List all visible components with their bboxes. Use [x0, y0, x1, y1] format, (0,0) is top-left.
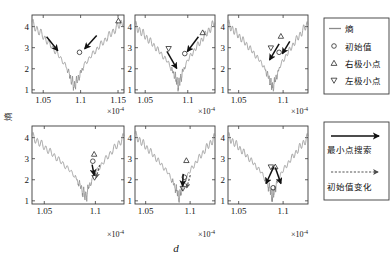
- y-axis-label: 熵: [3, 112, 13, 121]
- panel-6: 1.051.11234×10-4: [221, 126, 309, 239]
- x-tick-label: 1.05: [35, 95, 51, 105]
- y-tick-label: 3: [221, 43, 226, 53]
- entropy-search-figure: 熵 d 1.051.11.151234×10-41.051.11234×10-4…: [0, 0, 392, 258]
- x-tick-label: 1.05: [137, 95, 153, 105]
- panel-group: 1.051.11.151234×10-41.051.11234×10-41.05…: [25, 15, 309, 239]
- x-exponent-label: ×10-4: [291, 229, 308, 239]
- x-tick-label: 1.1: [184, 206, 195, 216]
- legend-arrows: 最小点搜索 初始值变化: [324, 122, 389, 200]
- y-tick-label: 2: [128, 64, 133, 74]
- y-tick-label: 3: [25, 43, 30, 53]
- x-axis-label: d: [173, 242, 179, 254]
- svg-text:d: d: [173, 242, 179, 254]
- y-tick-label: 2: [25, 64, 30, 74]
- y-tick-label: 1: [25, 85, 30, 95]
- y-tick-label: 4: [25, 133, 30, 143]
- x-exponent-label: ×10-4: [107, 106, 124, 116]
- circle-marker-icon: [91, 159, 96, 164]
- x-tick-label: 1.05: [36, 206, 52, 216]
- panel-1: 1.051.11.151234×10-4: [25, 15, 127, 116]
- x-tick-label: 1.15: [110, 95, 126, 105]
- solid-arrow-icon: [85, 35, 97, 48]
- y-tick-label: 1: [25, 196, 30, 206]
- x-exponent-label: ×10-4: [107, 229, 124, 239]
- entropy-curve: [228, 132, 308, 201]
- panel-3: 1.051.11234×10-4: [221, 15, 309, 116]
- entropy-curve: [228, 20, 308, 92]
- triangle-down-icon: [268, 46, 273, 51]
- plot-frame: [135, 15, 215, 93]
- entropy-curve: [32, 132, 124, 201]
- y-tick-label: 3: [128, 43, 133, 53]
- legend-label-initial-value: 初始值: [345, 42, 372, 52]
- legend-label-min-search: 最小点搜索: [327, 145, 372, 155]
- panel-4: 1.051.11234×10-4: [25, 126, 125, 239]
- legend-label-right-min: 右极小点: [345, 59, 381, 69]
- y-tick-label: 3: [25, 154, 30, 164]
- plot-frame: [32, 126, 124, 204]
- y-tick-label: 4: [25, 22, 30, 32]
- legend-label-left-min: 左极小点: [345, 76, 381, 86]
- solid-arrow-icon: [47, 37, 58, 51]
- y-tick-label: 3: [221, 154, 226, 164]
- y-tick-label: 4: [221, 133, 226, 143]
- x-tick-label: 1.1: [277, 206, 288, 216]
- x-exponent-label: ×10-4: [291, 106, 308, 116]
- x-tick-label: 1.1: [182, 95, 193, 105]
- solid-arrow-icon: [266, 167, 274, 184]
- x-tick-label: 1.1: [277, 95, 288, 105]
- triangle-up-icon: [278, 33, 283, 38]
- y-tick-label: 4: [128, 22, 133, 32]
- panel-2: 1.051.11234×10-4: [128, 15, 216, 116]
- entropy-curve: [135, 21, 215, 92]
- x-exponent-label: ×10-4: [198, 229, 215, 239]
- y-tick-label: 2: [221, 175, 226, 185]
- x-tick-label: 1.05: [231, 95, 247, 105]
- solid-arrow-icon: [183, 174, 184, 186]
- y-tick-label: 1: [128, 85, 133, 95]
- triangle-down-icon: [166, 47, 171, 52]
- legend-label-init-change: 初始值变化: [327, 182, 372, 192]
- y-tick-label: 1: [221, 85, 226, 95]
- triangle-up-icon: [184, 158, 189, 163]
- x-tick-label: 1.1: [90, 206, 101, 216]
- y-tick-label: 2: [221, 64, 226, 74]
- legend-markers: 熵 初始值 右极小点 左极小点: [324, 18, 389, 94]
- x-tick-label: 1.1: [75, 95, 86, 105]
- y-tick-label: 4: [128, 133, 133, 143]
- circle-marker-icon: [277, 50, 282, 55]
- panel-5: 1.051.11234×10-4: [128, 126, 216, 239]
- solid-arrow-icon: [92, 165, 94, 176]
- circle-marker-icon: [77, 50, 82, 55]
- y-tick-label: 1: [221, 196, 226, 206]
- entropy-curve: [32, 19, 124, 90]
- legend-label-entropy: 熵: [345, 24, 354, 34]
- plot-frame: [228, 15, 308, 93]
- solid-arrow-icon: [167, 51, 177, 68]
- solid-arrow-icon: [187, 37, 198, 52]
- x-tick-label: 1.05: [231, 206, 247, 216]
- y-tick-label: 2: [25, 175, 30, 185]
- x-exponent-label: ×10-4: [198, 106, 215, 116]
- x-tick-label: 1.05: [138, 206, 154, 216]
- y-tick-label: 3: [128, 154, 133, 164]
- triangle-up-icon: [91, 151, 96, 156]
- y-tick-label: 1: [128, 196, 133, 206]
- entropy-curve: [135, 131, 215, 202]
- y-tick-label: 4: [221, 22, 226, 32]
- y-tick-label: 2: [128, 175, 133, 185]
- circle-marker-icon: [182, 51, 187, 56]
- svg-text:熵: 熵: [3, 112, 13, 121]
- triangle-up-icon: [116, 18, 121, 23]
